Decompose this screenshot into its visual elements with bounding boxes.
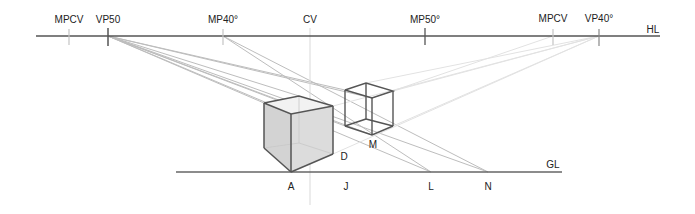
ground-line-label: GL: [546, 159, 559, 170]
point-label-a: A: [288, 181, 295, 192]
marker-label-vp40: VP40°: [585, 13, 613, 24]
marker-label-mp50: MP50°: [410, 14, 440, 25]
point-label-n: N: [484, 181, 491, 192]
marker-label-cv: CV: [303, 14, 317, 25]
point-label-l: L: [428, 181, 434, 192]
horizon-line-label: HL: [647, 24, 660, 35]
shaded-cube: [264, 96, 333, 172]
point-label-d: D: [340, 151, 347, 162]
marker-label-mpcv-right: MPCV: [539, 13, 568, 24]
marker-label-mpcv-left: MPCV: [55, 14, 84, 25]
marker-label-mp40: MP40°: [208, 14, 238, 25]
horizon-ticks: [69, 28, 599, 46]
point-label-m: M: [369, 139, 377, 150]
vp40-construction-lines: [333, 36, 599, 154]
marker-label-vp50: VP50: [96, 14, 120, 25]
mp40-construction-lines: [223, 36, 488, 172]
point-label-j: J: [344, 181, 349, 192]
